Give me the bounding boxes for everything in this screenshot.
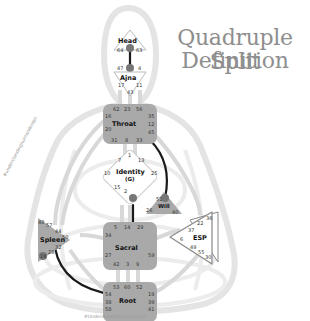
chart-title-line2: Definition [160,49,310,73]
gate-esp: 55 [198,249,204,255]
gate-throat: 16 [105,113,111,119]
gate-ajna: 4 [138,65,141,71]
label-head: Head [118,37,137,45]
gate-dot [126,44,134,52]
gate-sacral: 9 [136,261,139,267]
gate-dot [129,194,137,202]
gate-sacral: 29 [137,224,143,230]
gate-esp: 49 [190,244,196,250]
label-esp: ESP [193,234,207,242]
gate-identity: 2 [124,188,127,194]
gate-identity: 13 [138,157,144,163]
gate-root: 53 [113,284,119,290]
label-ajna: Ajna [120,74,136,82]
gate-throat: 8 [125,137,128,143]
gate-head: 63 [136,47,142,53]
gate-throat: 56 [136,106,142,112]
gate-dot [126,64,134,72]
gate-spleen: 18 [40,253,46,259]
gate-throat: 33 [136,137,142,143]
gate-spleen: 32 [55,244,61,250]
label-root: Root [119,297,136,305]
gate-spleen: 28 [48,249,54,255]
gate-esp: 6 [180,236,183,242]
gate-throat: 31 [111,137,117,143]
gate-root: 38 [105,299,111,305]
gate-identity: 15 [114,184,120,190]
gate-identity: 10 [104,170,110,176]
gate-throat: 62 [113,106,119,112]
gate-spleen: 48 [38,219,44,225]
gate-sacral: 42 [113,261,119,267]
gate-spleen: 57 [46,222,52,228]
gate-sacral: 3 [126,261,129,267]
gate-head: 64 [117,47,123,53]
gate-sacral: 5 [114,224,117,230]
label-sacral: Sacral [115,244,138,252]
gate-sacral: 34 [105,232,111,238]
gate-throat: 20 [105,126,111,132]
gate-root: 52 [136,284,142,290]
label-identity-sub: (G) [125,176,135,182]
label-will: Will [158,203,170,209]
gate-will: 40 [172,209,178,215]
gate-sacral: 14 [124,224,130,230]
gate-sacral: 27 [105,252,111,258]
gate-esp: 30 [205,254,211,260]
gate-esp: 37 [188,227,194,233]
label-throat: Throat [112,120,136,128]
gate-ajna: 47 [117,65,123,71]
gate-identity: 7 [118,157,121,163]
gate-root: 39 [148,299,154,305]
watermark-bottom: #UnderstandHumanDesign [84,314,146,319]
gate-root: 41 [148,306,154,312]
gate-identity: 25 [151,170,157,176]
gate-throat: 45 [148,129,154,135]
gate-ajna: 11 [136,82,142,88]
gate-spleen: 50 [62,234,68,240]
gate-esp: 22 [197,220,203,226]
label-identity: Identity [116,168,145,176]
gate-root: 19 [148,291,154,297]
bodygraph-chart: Quadruple Split Definition Head Ajna Thr… [0,0,310,321]
gate-spleen: 44 [55,228,61,234]
gate-ajna: 43 [127,89,133,95]
gate-sacral: 59 [148,252,154,258]
gate-ajna: 17 [118,82,124,88]
gate-root: 60 [124,284,130,290]
gate-esp: 36 [206,215,212,221]
gate-throat: 35 [148,113,154,119]
gate-throat: 23 [124,106,130,112]
gate-identity: 1 [128,152,131,158]
gate-will: 51 [156,196,162,202]
gate-root: 54 [105,291,111,297]
gate-root: 58 [105,306,111,312]
gate-throat: 12 [148,121,154,127]
gate-will: 26 [146,207,152,213]
